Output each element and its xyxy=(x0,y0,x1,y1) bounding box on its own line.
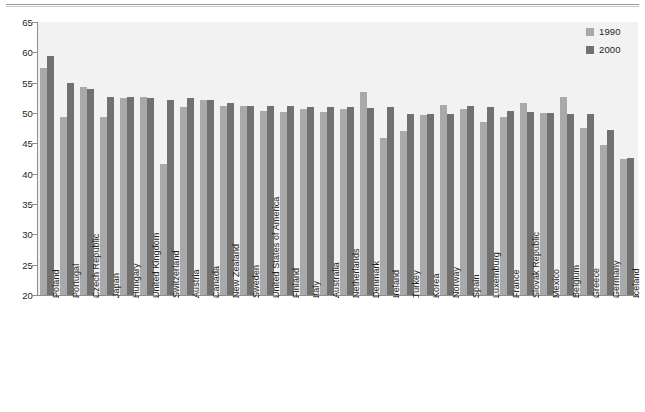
x-axis-label: Germany xyxy=(612,260,621,298)
bar-group xyxy=(58,22,78,295)
x-axis-label: Japan xyxy=(112,273,121,298)
x-axis-label: Poland xyxy=(52,269,61,298)
bar-group xyxy=(598,22,618,295)
x-axis-label: Spain xyxy=(472,274,481,298)
bar-group xyxy=(558,22,578,295)
x-axis-label: Turkey xyxy=(412,270,421,298)
legend-item-1990: 1990 xyxy=(586,26,642,37)
bar-1990 xyxy=(440,105,447,295)
x-axis-label: Italy xyxy=(312,281,321,298)
bar-group xyxy=(178,22,198,295)
legend-item-2000: 2000 xyxy=(586,44,642,55)
y-axis-tick-mark xyxy=(32,295,37,296)
bar-series-container xyxy=(38,22,638,295)
bar-2000 xyxy=(507,111,514,295)
bar-group xyxy=(198,22,218,295)
y-axis-tick-mark xyxy=(32,174,37,175)
bar-group xyxy=(238,22,258,295)
bar-group xyxy=(38,22,58,295)
x-axis-label: Luxemburg xyxy=(492,252,501,298)
x-axis-label: Finland xyxy=(292,268,301,298)
legend-label-1990: 1990 xyxy=(599,26,621,37)
x-axis-label: Switzerland xyxy=(172,250,181,298)
chart-page: 20253035404550556065 PolandPortugalCzech… xyxy=(0,0,645,412)
bar-2000 xyxy=(427,114,434,295)
bar-1990 xyxy=(560,97,567,295)
bar-2000 xyxy=(547,113,554,295)
x-axis-label: Australia xyxy=(332,262,341,298)
bar-group xyxy=(358,22,378,295)
bar-group xyxy=(318,22,338,295)
bar-group xyxy=(98,22,118,295)
bar-2000 xyxy=(307,107,314,295)
bar-group xyxy=(438,22,458,295)
x-axis-label: Hungary xyxy=(132,263,141,298)
bar-group xyxy=(458,22,478,295)
bar-1990 xyxy=(40,68,47,296)
y-axis-tick-mark xyxy=(32,204,37,205)
bar-chart: 20253035404550556065 PolandPortugalCzech… xyxy=(0,0,645,412)
y-axis-tick-mark xyxy=(32,52,37,53)
x-axis-label: Austria xyxy=(192,269,201,298)
y-axis-tick-mark xyxy=(32,83,37,84)
bar-group xyxy=(378,22,398,295)
bar-2000 xyxy=(387,107,394,295)
bar-group xyxy=(298,22,318,295)
y-axis-tick-mark xyxy=(32,143,37,144)
x-axis-label: Czech Republic xyxy=(92,234,101,298)
x-axis-label: New Zealand xyxy=(232,244,241,298)
bar-2000 xyxy=(407,114,414,295)
y-axis-tick-mark xyxy=(32,234,37,235)
y-axis-tick-mark xyxy=(32,265,37,266)
x-axis-label: Canada xyxy=(212,266,221,298)
bar-group xyxy=(118,22,138,295)
bar-group xyxy=(578,22,598,295)
bar-2000 xyxy=(467,106,474,295)
legend-swatch-1990 xyxy=(586,28,594,36)
x-axis-label: Denmark xyxy=(372,261,381,298)
x-axis-label: Sweden xyxy=(252,265,261,298)
bar-2000 xyxy=(287,106,294,295)
x-axis-label: United States of America xyxy=(272,197,281,298)
y-axis-tick-mark xyxy=(32,113,37,114)
x-axis-label: Ireland xyxy=(392,270,401,298)
bar-1990 xyxy=(480,122,487,295)
bar-group xyxy=(498,22,518,295)
bar-2000 xyxy=(47,56,54,295)
x-axis-label: Netherlands xyxy=(352,248,361,298)
bar-group xyxy=(618,22,638,295)
bar-2000 xyxy=(107,97,114,295)
bar-group xyxy=(538,22,558,295)
bar-1990 xyxy=(320,112,327,295)
bar-group xyxy=(278,22,298,295)
bar-group xyxy=(398,22,418,295)
x-axis-label: France xyxy=(512,269,521,298)
x-axis-label: Portugal xyxy=(72,264,81,298)
bar-1990 xyxy=(120,98,127,295)
x-axis-label: Belgium xyxy=(572,265,581,298)
x-axis-labels: PolandPortugalCzech RepublicJapanHungary… xyxy=(38,298,638,412)
bar-1990 xyxy=(200,100,207,295)
x-axis-label: Korea xyxy=(432,273,441,298)
x-axis-label: Greece xyxy=(592,268,601,298)
y-axis-tick-mark xyxy=(32,22,37,23)
bar-1990 xyxy=(60,117,67,295)
x-axis-label: Slovak Republic xyxy=(532,232,541,298)
legend-label-2000: 2000 xyxy=(599,44,621,55)
bar-1990 xyxy=(520,103,527,295)
x-axis-label: Norway xyxy=(452,267,461,298)
bar-group xyxy=(418,22,438,295)
bar-2000 xyxy=(187,98,194,295)
bar-1990 xyxy=(420,115,427,295)
legend-swatch-2000 xyxy=(586,46,594,54)
x-axis-label: Iceland xyxy=(632,268,641,298)
x-axis-label: United Kingdom xyxy=(152,233,161,298)
x-axis-label: Mexico xyxy=(552,269,561,298)
chart-legend: 1990 2000 xyxy=(586,26,642,62)
